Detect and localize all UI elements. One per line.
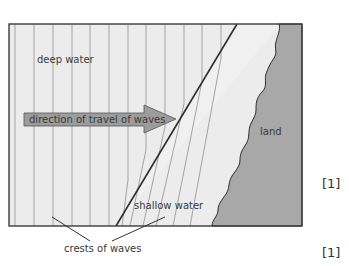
mark-2: [1]: [322, 245, 340, 260]
land-label: land: [260, 126, 282, 137]
shallow-water-label: shallow water: [134, 200, 204, 211]
wave-refraction-diagram: deep water direction of travel of waves …: [0, 0, 349, 266]
mark-1: [1]: [322, 176, 340, 191]
direction-label: direction of travel of waves: [29, 114, 165, 125]
deep-water-label: deep water: [37, 54, 95, 65]
crests-label: crests of waves: [64, 243, 141, 254]
